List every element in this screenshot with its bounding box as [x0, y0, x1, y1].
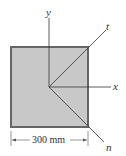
y-axis-label: y [46, 6, 51, 18]
t-axis-label: t [106, 20, 109, 32]
dim-arrow-right [83, 139, 87, 142]
dimension-label: 300 mm [32, 134, 65, 145]
x-axis-label: x [113, 80, 118, 92]
n-axis-label: n [106, 141, 112, 153]
dim-arrow-left [12, 139, 16, 142]
